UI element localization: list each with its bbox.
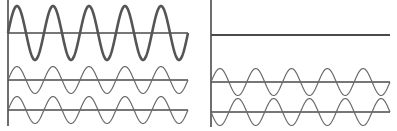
wave-interference-diagram	[0, 0, 397, 131]
panel-destructive	[211, 0, 390, 127]
panel-constructive	[8, 0, 188, 126]
